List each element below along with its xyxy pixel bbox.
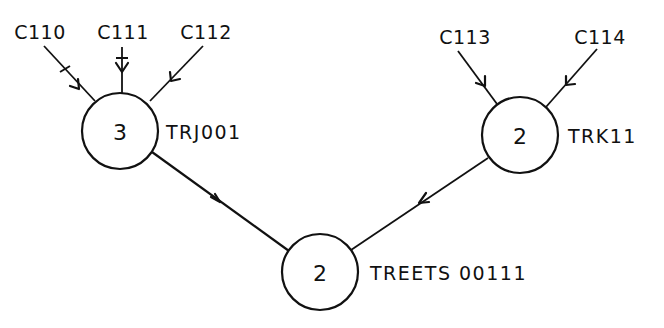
node-count: 3: [113, 120, 127, 145]
input-edge-c114: [546, 49, 597, 107]
edge-trk11-to-treets: [351, 158, 488, 250]
input-label-c112: C112: [180, 21, 232, 43]
node-count: 2: [313, 261, 327, 286]
input-label-c114: C114: [574, 26, 626, 48]
input-label-c113: C113: [439, 26, 491, 48]
input-edge-c110: [44, 46, 95, 101]
input-edge-c112: [150, 46, 203, 101]
node-label: TRJ001: [165, 121, 242, 143]
node-trj001: 3 TRJ001: [82, 93, 242, 169]
input-label-c110: C110: [14, 21, 66, 43]
input-label-c111: C111: [97, 21, 149, 43]
node-treets-00111: 2 TREETS 00111: [282, 234, 527, 310]
node-label: TREETS 00111: [369, 262, 527, 284]
node-trk11: 2 TRK11: [482, 97, 637, 173]
tree-diagram: C110 C111 C112 C113 C114 3 TRJ001 2 TRK: [0, 0, 664, 328]
node-label: TRK11: [567, 125, 637, 147]
input-edge-c111: [116, 47, 128, 93]
arrow-head-icon: [170, 72, 180, 81]
node-count: 2: [513, 124, 527, 149]
input-edge-c113: [458, 51, 497, 104]
arrow-head-icon: [70, 79, 79, 89]
edge-trj001-to-treets: [152, 152, 289, 251]
